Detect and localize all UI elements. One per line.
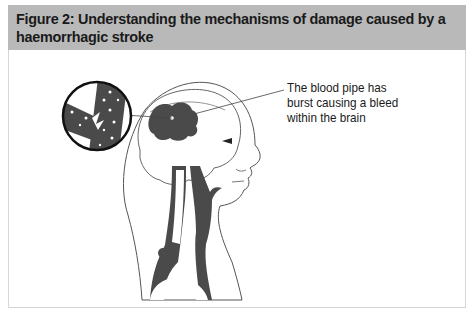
aneurysm-icon bbox=[158, 248, 168, 258]
brain-bleed-icon bbox=[148, 103, 198, 141]
callout-label: The blood pipe has burst causing a bleed… bbox=[287, 80, 413, 125]
stroke-illustration bbox=[0, 0, 474, 316]
